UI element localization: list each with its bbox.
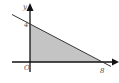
x-axis-arrow-icon — [112, 59, 119, 66]
x-intercept-label: 8 — [100, 67, 105, 75]
y-intercept-label: 4 — [23, 21, 28, 29]
y-axis-arrow-icon — [27, 3, 34, 11]
origin-label: O — [24, 64, 30, 72]
coordinate-diagram: y 4 O 8 — [0, 0, 119, 83]
